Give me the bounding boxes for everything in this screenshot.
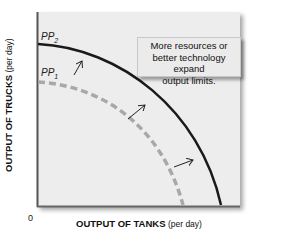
y-axis-unit: (per day) bbox=[4, 39, 14, 75]
x-axis-title: OUTPUT OF TANKS bbox=[76, 218, 166, 229]
pp1-label-main: PP bbox=[41, 67, 54, 78]
callout-line-3: output limits. bbox=[138, 75, 240, 87]
y-axis-label: OUTPUT OF TRUCKS (per day) bbox=[3, 0, 17, 220]
x-axis-unit: (per day) bbox=[166, 219, 202, 229]
pp1-label: PP1 bbox=[41, 67, 58, 80]
annotation-callout: More resources or better technology expa… bbox=[137, 37, 241, 77]
x-axis-label: OUTPUT OF TANKS (per day) bbox=[76, 218, 202, 229]
callout-line-1: More resources or bbox=[138, 40, 240, 52]
callout-line-2: better technology expand bbox=[138, 52, 240, 75]
y-axis-title: OUTPUT OF TRUCKS bbox=[3, 75, 14, 172]
pp2-label-sub: 2 bbox=[54, 37, 58, 44]
pp2-label: PP2 bbox=[41, 31, 58, 44]
pp2-label-main: PP bbox=[41, 31, 54, 42]
origin-label: 0 bbox=[28, 213, 33, 223]
pp1-label-sub: 1 bbox=[54, 73, 58, 80]
